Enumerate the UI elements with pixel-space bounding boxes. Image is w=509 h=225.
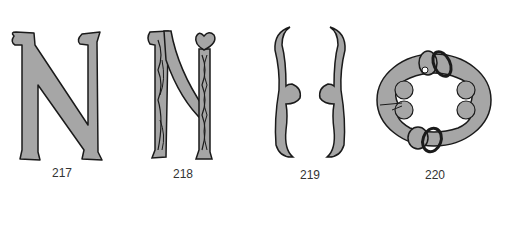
caption-220: 220 <box>425 168 445 182</box>
caption-219: 219 <box>300 168 320 182</box>
interlace-ring-icon <box>0 0 140 170</box>
caption-218: 218 <box>173 167 193 181</box>
